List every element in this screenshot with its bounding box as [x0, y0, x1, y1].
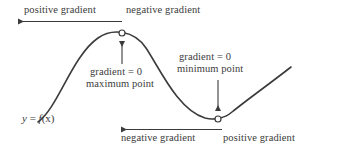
label-top-left-positive-gradient: positive gradient	[24, 4, 96, 16]
function-label-equals: =	[27, 112, 39, 124]
minimum-point-marker	[215, 116, 221, 122]
sinusoidal-curve	[38, 32, 291, 122]
label-minimum-gradient-zero: gradient = 0	[179, 51, 231, 63]
function-label: y = f(x)	[22, 112, 55, 124]
function-label-argument: (x)	[42, 112, 55, 124]
label-bottom-left-negative-gradient: negative gradient	[121, 132, 195, 144]
label-bottom-right-positive-gradient: positive gradient	[223, 132, 295, 144]
maximum-point-marker	[119, 30, 125, 36]
label-top-right-negative-gradient: negative gradient	[126, 4, 200, 16]
label-minimum-point: minimum point	[177, 63, 243, 75]
diagram-canvas: positive gradient negative gradient grad…	[0, 0, 338, 155]
label-maximum-point: maximum point	[86, 78, 154, 90]
label-maximum-gradient-zero: gradient = 0	[90, 66, 142, 78]
